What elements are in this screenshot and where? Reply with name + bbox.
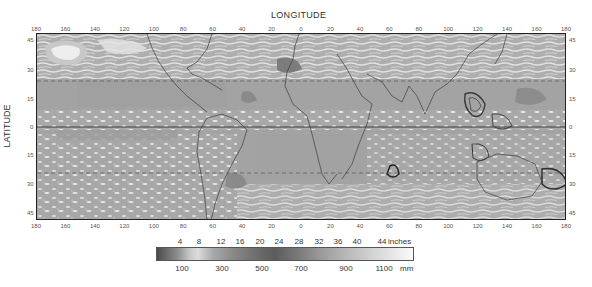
lon-tick: 180: [561, 26, 571, 32]
lat-tick: 15: [569, 152, 576, 158]
mm-tick: 300: [215, 264, 228, 273]
lon-tick: 60: [386, 26, 393, 32]
lon-tick: 160: [532, 223, 542, 229]
lon-tick: 160: [532, 26, 542, 32]
lat-tick: 45: [569, 37, 576, 43]
lon-tick: 140: [90, 26, 100, 32]
lat-tick: 45: [27, 210, 34, 216]
lat-tick: 45: [569, 210, 576, 216]
inch-tick: 24: [275, 237, 284, 246]
lat-tick: 0: [569, 124, 572, 130]
inch-tick: 32: [315, 237, 324, 246]
lon-tick: 80: [180, 223, 187, 229]
mm-tick: 900: [339, 264, 352, 273]
lon-tick: 40: [239, 26, 246, 32]
lat-tick: 30: [569, 67, 576, 73]
lat-tick: 15: [569, 96, 576, 102]
inch-tick: 20: [256, 237, 265, 246]
lon-tick: 120: [119, 223, 129, 229]
lon-tick: 100: [443, 26, 453, 32]
inch-tick: 4: [178, 237, 182, 246]
inches-unit-label: inches: [388, 237, 411, 246]
lon-tick: 20: [327, 26, 334, 32]
lon-tick: 40: [239, 223, 246, 229]
lon-tick: 0: [299, 223, 302, 229]
mm-tick: 100: [175, 264, 188, 273]
colorbar: [156, 247, 414, 261]
lon-tick: 40: [357, 223, 364, 229]
inch-tick: 28: [295, 237, 304, 246]
inch-tick: 40: [353, 237, 362, 246]
lon-tick: 100: [443, 223, 453, 229]
mm-tick: 700: [294, 264, 307, 273]
lat-tick: 30: [27, 181, 34, 187]
lat-tick: 15: [27, 152, 34, 158]
lon-tick: 140: [502, 223, 512, 229]
lon-tick: 120: [119, 26, 129, 32]
lon-tick: 80: [415, 26, 422, 32]
lon-tick: 20: [327, 223, 334, 229]
lat-tick: 30: [27, 67, 34, 73]
lon-tick: 160: [60, 223, 70, 229]
lon-tick: 180: [31, 223, 41, 229]
lon-tick: 80: [180, 26, 187, 32]
lat-tick: 0: [30, 124, 33, 130]
lon-tick: 100: [149, 26, 159, 32]
inch-tick: 12: [217, 237, 226, 246]
mm-tick: 500: [255, 264, 268, 273]
mm-unit-label: mm: [400, 264, 413, 273]
lat-tick: 45: [27, 37, 34, 43]
inch-tick: 16: [236, 237, 245, 246]
lon-tick: 180: [31, 26, 41, 32]
lon-tick: 60: [209, 26, 216, 32]
lon-tick: 60: [209, 223, 216, 229]
lon-tick: 20: [268, 223, 275, 229]
precipitation-map: [36, 33, 566, 220]
lon-tick: 160: [60, 26, 70, 32]
lon-tick: 0: [299, 26, 302, 32]
lon-tick: 140: [502, 26, 512, 32]
x-axis-title: LONGITUDE: [271, 10, 326, 20]
inch-tick: 44: [378, 237, 387, 246]
lon-tick: 180: [561, 223, 571, 229]
lon-tick: 80: [415, 223, 422, 229]
inch-tick: 8: [197, 237, 201, 246]
lon-tick: 120: [473, 26, 483, 32]
inch-tick: 36: [334, 237, 343, 246]
lon-tick: 20: [268, 26, 275, 32]
map-canvas: [37, 34, 566, 220]
lon-tick: 60: [386, 223, 393, 229]
mm-tick: 1100: [375, 264, 392, 273]
lon-tick: 40: [357, 26, 364, 32]
lon-tick: 100: [149, 223, 159, 229]
y-axis-title: LATITUDE: [2, 105, 12, 148]
lat-tick: 15: [27, 96, 34, 102]
lon-tick: 140: [90, 223, 100, 229]
lon-tick: 120: [473, 223, 483, 229]
lat-tick: 30: [569, 181, 576, 187]
